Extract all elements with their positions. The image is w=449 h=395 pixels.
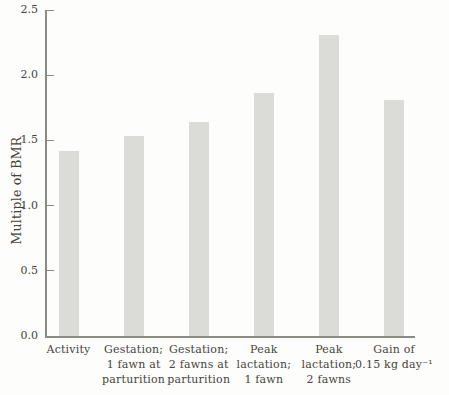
y-axis-line	[45, 10, 47, 337]
bar-2	[124, 136, 144, 336]
y-tick-label: 2.5	[11, 3, 38, 17]
y-tick-mark	[46, 270, 54, 271]
y-axis-title: Multiple of BMR	[9, 136, 24, 246]
bar-4	[254, 93, 274, 336]
x-axis-line	[45, 336, 415, 338]
y-tick-label: 1.5	[11, 133, 38, 147]
x-tick-label-line: 2 fawns	[281, 372, 377, 387]
bar-3	[189, 122, 209, 336]
y-tick-label: 0.5	[11, 264, 38, 278]
y-tick-label: 0.0	[11, 329, 38, 343]
y-tick-label: 1.0	[11, 199, 38, 213]
y-tick-label: 2.0	[11, 68, 38, 82]
bar-1	[59, 151, 79, 336]
bar-6	[384, 100, 404, 336]
y-tick-mark	[46, 75, 54, 76]
x-tick-label-line: 0.15 kg day⁻¹	[346, 357, 442, 372]
y-tick-mark	[46, 10, 54, 11]
x-tick-label-6: Gain of0.15 kg day⁻¹	[346, 342, 442, 372]
y-tick-mark	[46, 140, 54, 141]
y-tick-mark	[46, 205, 54, 206]
bar-chart-figure: Multiple of BMR 0.00.51.01.52.02.5Activi…	[0, 0, 449, 395]
bar-5	[319, 35, 339, 336]
x-tick-label-line: Gain of	[346, 342, 442, 357]
